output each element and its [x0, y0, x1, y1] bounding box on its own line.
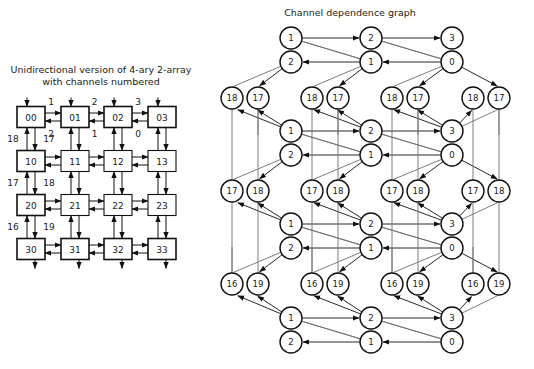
- mesh-node-label: 03: [156, 113, 167, 123]
- dependency-node-label: 3: [449, 313, 454, 323]
- dependency-node-label: 0: [449, 243, 454, 253]
- mesh-node-label: 02: [112, 113, 123, 123]
- dependency-node-label: 2: [368, 126, 373, 136]
- channel-node-label: 18: [387, 93, 398, 103]
- dependency-node-label: 2: [368, 219, 373, 229]
- channel-node-label: 17: [468, 186, 479, 196]
- dependency-node-label: 1: [288, 313, 293, 323]
- dep-cross-up: [302, 321, 361, 339]
- figure-canvas: Unidirectional version of 4-ary 2-array …: [0, 0, 534, 369]
- channel-label-left: 17: [7, 178, 18, 188]
- dependency-node-label: 1: [368, 337, 373, 347]
- mesh-node-label: 21: [69, 201, 80, 211]
- dep-to-channel-down: [260, 69, 283, 86]
- dep-to-channel: [238, 110, 281, 127]
- dep-to-channel: [238, 296, 281, 314]
- dependency-node-label: 2: [368, 313, 373, 323]
- dependency-node-label: 3: [449, 126, 454, 136]
- dependency-node-label: 1: [288, 126, 293, 136]
- channel-node-label: 17: [387, 186, 398, 196]
- channel-node-label: 17: [333, 93, 344, 103]
- dependency-node-label: 1: [368, 243, 373, 253]
- channel-label-left: 16: [7, 222, 19, 232]
- channel-node-label: 17: [227, 186, 238, 196]
- channel-label-top: 3: [135, 97, 141, 107]
- dep-to-channel-down: [234, 66, 281, 86]
- dep-to-channel-down: [260, 255, 283, 272]
- channel-node-label: 18: [333, 186, 344, 196]
- dep-to-channel: [314, 296, 361, 314]
- dep-to-channel: [460, 110, 472, 123]
- mesh-node-label: 31: [69, 245, 80, 255]
- dependency-node-label: 2: [288, 243, 293, 253]
- channel-node-label: 18: [307, 93, 318, 103]
- channel-node-label: 19: [333, 279, 344, 289]
- dep-cross-up: [382, 321, 442, 339]
- channel-label-bottom: 1: [92, 129, 98, 139]
- dep-to-channel-down: [314, 66, 361, 86]
- mesh-node-label: 33: [156, 245, 167, 255]
- channel-node-label: 18: [468, 93, 479, 103]
- mesh-node-label: 32: [112, 245, 123, 255]
- dep-to-channel-down: [340, 69, 363, 86]
- channel-node-label: 16: [468, 279, 479, 289]
- dep-cross-up: [382, 41, 442, 59]
- dependence-graph-group: 1817181718171817171817181718171816191619…: [221, 27, 510, 353]
- dep-to-channel-down: [462, 160, 498, 179]
- channel-label-left: 18: [7, 134, 19, 144]
- mesh-node-label: 01: [69, 113, 80, 123]
- dep-to-channel-down: [462, 67, 498, 86]
- mesh-node-label: 10: [25, 157, 37, 167]
- channel-node-label: 16: [227, 279, 238, 289]
- dependency-node-label: 3: [449, 33, 454, 43]
- mesh-node-label: 13: [156, 157, 167, 167]
- mesh-node-label: 30: [25, 245, 37, 255]
- dep-to-channel-down: [234, 252, 281, 272]
- dep-to-channel-down: [314, 252, 361, 272]
- channel-node-label: 19: [494, 279, 505, 289]
- dep-to-channel: [459, 296, 471, 309]
- dep-cross-up: [302, 134, 361, 152]
- mesh-node-label: 00: [25, 113, 37, 123]
- dep-to-channel-down: [420, 69, 444, 86]
- dep-cross-up: [382, 134, 442, 152]
- dependency-node-label: 1: [368, 57, 373, 67]
- channel-node-label: 17: [253, 93, 264, 103]
- dep-to-channel: [394, 296, 442, 314]
- channel-node-label: 17: [307, 186, 318, 196]
- dep-to-channel-down: [340, 255, 363, 272]
- dependency-node-label: 0: [449, 337, 454, 347]
- dep-to-channel-down: [420, 162, 444, 179]
- dependency-node-label: 0: [449, 150, 454, 160]
- channel-label-bottom: 0: [135, 129, 141, 139]
- dep-to-channel-down: [340, 162, 363, 179]
- dependency-node-label: 1: [368, 150, 373, 160]
- channel-node-label: 16: [387, 279, 398, 289]
- channel-node-label: 17: [494, 93, 505, 103]
- channel-node-label: 18: [227, 93, 238, 103]
- dependency-node-label: 1: [288, 33, 293, 43]
- dep-cross-up: [302, 227, 361, 245]
- dep-to-channel: [314, 110, 361, 127]
- channel-node-label: 16: [307, 279, 318, 289]
- dep-to-channel: [460, 203, 472, 216]
- dep-to-channel-down: [314, 159, 361, 179]
- dependency-node-label: 2: [368, 33, 373, 43]
- dependency-node-label: 3: [449, 219, 454, 229]
- mesh-node-label: 20: [25, 201, 37, 211]
- dep-to-channel-down: [234, 159, 281, 179]
- dep-to-channel: [462, 110, 497, 126]
- channel-label-right: 19: [43, 222, 55, 232]
- channel-label-top: 2: [92, 97, 98, 107]
- dependency-node-label: 2: [288, 57, 293, 67]
- channel-label-right: 17: [43, 134, 54, 144]
- dep-to-channel: [462, 203, 497, 219]
- mesh-node-label: 22: [112, 201, 123, 211]
- dependency-node-label: 0: [449, 57, 454, 67]
- mesh-node-label: 12: [112, 157, 123, 167]
- channel-node-label: 19: [253, 279, 264, 289]
- dependency-node-label: 2: [288, 337, 293, 347]
- dependency-node-label: 1: [288, 219, 293, 229]
- dep-cross-up: [302, 41, 361, 59]
- channel-node-label: 18: [413, 186, 424, 196]
